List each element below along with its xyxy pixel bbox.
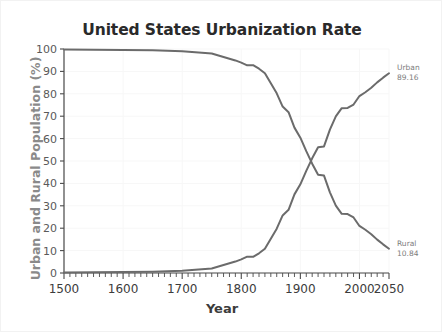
chart-figure: United States Urbanization Rate Urban an… xyxy=(0,0,442,332)
y-tick-label: 10 xyxy=(43,245,57,258)
y-tick-label: 80 xyxy=(43,88,57,101)
y-tick-label: 60 xyxy=(43,133,57,146)
series-line-rural xyxy=(64,49,389,248)
series-line-urban xyxy=(64,73,389,272)
x-tick-label: 1700 xyxy=(167,282,198,296)
y-tick-label: 70 xyxy=(43,110,57,123)
annotation-name-urban: Urban xyxy=(397,63,420,72)
gridlines xyxy=(64,49,389,273)
annotation-value-rural: 10.84 xyxy=(397,249,419,258)
y-tick-label: 0 xyxy=(50,267,57,280)
x-axis-ticks: 1500160017001800190020002050 xyxy=(49,273,405,296)
x-tick-label: 1800 xyxy=(226,282,257,296)
plot-area: 0102030405060708090100 15001600170018001… xyxy=(1,1,442,332)
y-tick-label: 40 xyxy=(43,177,57,190)
x-tick-label: 1600 xyxy=(108,282,139,296)
y-axis-ticks: 0102030405060708090100 xyxy=(36,43,64,280)
y-tick-label: 20 xyxy=(43,222,57,235)
annotation-name-rural: Rural xyxy=(397,239,416,248)
x-tick-label: 2050 xyxy=(374,282,405,296)
y-tick-label: 100 xyxy=(36,43,57,56)
annotation-value-urban: 89.16 xyxy=(397,73,419,82)
x-tick-label: 2000 xyxy=(344,282,375,296)
x-tick-label: 1500 xyxy=(49,282,80,296)
y-tick-label: 90 xyxy=(43,65,57,78)
y-tick-label: 30 xyxy=(43,200,57,213)
x-tick-label: 1900 xyxy=(285,282,316,296)
series-end-annotations: Urban89.16Rural10.84 xyxy=(397,63,420,257)
y-tick-label: 50 xyxy=(43,155,57,168)
